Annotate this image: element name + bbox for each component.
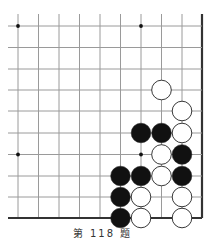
board-grid bbox=[8, 14, 202, 218]
white-stone bbox=[172, 123, 192, 143]
white-stone bbox=[152, 166, 172, 186]
white-stone bbox=[172, 208, 192, 228]
white-stone bbox=[152, 80, 172, 100]
black-stone bbox=[111, 187, 131, 207]
white-stone bbox=[152, 145, 172, 165]
black-stone bbox=[111, 166, 131, 186]
white-stone bbox=[172, 101, 192, 121]
black-stone bbox=[172, 166, 192, 186]
black-stone bbox=[172, 145, 192, 165]
star-point bbox=[139, 153, 143, 157]
star-point bbox=[139, 24, 143, 28]
white-stone bbox=[172, 187, 192, 207]
problem-caption: 第 118 题 bbox=[0, 228, 205, 239]
white-stone bbox=[131, 208, 151, 228]
star-point bbox=[16, 153, 20, 157]
star-point bbox=[16, 24, 20, 28]
black-stone bbox=[152, 123, 172, 143]
black-stone bbox=[131, 123, 151, 143]
white-stone bbox=[131, 187, 151, 207]
black-stone bbox=[131, 166, 151, 186]
black-stone bbox=[111, 208, 131, 228]
go-board bbox=[0, 0, 205, 239]
